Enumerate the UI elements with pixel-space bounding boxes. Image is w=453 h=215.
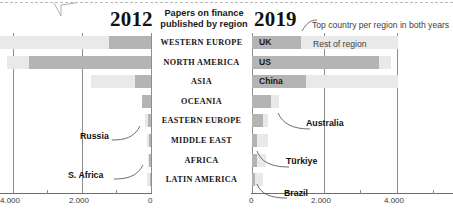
bar-segment-top-country: [150, 173, 151, 186]
bar-row: [0, 36, 152, 49]
annotation-russia: Russia: [80, 131, 109, 141]
bar-segment-top-country: [252, 134, 257, 147]
region-label-column: WESTERN EUROPENORTH AMERICAASIAOCEANIAEA…: [152, 33, 251, 193]
bar-segment-top-country: [29, 56, 151, 69]
year-label-2012: 2012: [110, 7, 153, 32]
bar-row: [251, 95, 453, 108]
region-label-africa: AFRICA: [152, 154, 251, 167]
bar-segment-top-country: [252, 173, 255, 186]
tick-left-0: 0: [148, 196, 152, 205]
bar-row: [251, 134, 453, 147]
rest-of-region-legend: Rest of region: [313, 38, 367, 51]
annotation-s-africa: S. Africa: [68, 170, 103, 180]
tick-left-2000: 2.000: [69, 196, 89, 205]
bar-segment-top-country: [142, 95, 151, 108]
bar-segment-top-country: [149, 134, 151, 147]
bar-segment-top-country: [135, 75, 151, 88]
chart-title-line2: published by region: [155, 19, 253, 30]
region-label-north-america: NORTH AMERICA: [152, 56, 251, 69]
bar-row: US: [251, 56, 453, 69]
tick-right-2000: 2.000: [311, 196, 331, 205]
bar-row: [0, 95, 152, 108]
chart-title-line1: Papers on finance: [155, 8, 253, 19]
tick-right-0: 0: [249, 196, 253, 205]
country-label-us: US: [252, 56, 379, 69]
bar-segment-top-country: [149, 154, 151, 167]
annotation-turkiye: Türkiye: [286, 156, 317, 166]
s-africa-leader-line: [114, 164, 144, 182]
annotation-australia: Australia: [306, 118, 344, 128]
region-label-latin-america: LATIN AMERICA: [152, 173, 251, 186]
bar-segment-top-country: [252, 114, 263, 127]
tick-left-4000: 4.000: [0, 196, 20, 205]
chart-title: Papers on finance published by region: [155, 8, 253, 30]
bar-segment-top-country: [109, 36, 151, 49]
top-country-note: Top country per region in both years: [312, 20, 449, 30]
bar-row: China: [251, 75, 453, 88]
region-label-asia: ASIA: [152, 75, 251, 88]
turkiye-leader-line: [256, 150, 290, 170]
bar-row: [0, 56, 152, 69]
minor-ticks: [0, 190, 453, 196]
region-label-western-europe: WESTERN EUROPE: [152, 36, 251, 49]
region-label-middle-east: MIDDLE EAST: [152, 134, 251, 147]
annotation-brazil: Brazil: [284, 188, 308, 198]
tick-right-4000: 4.000: [384, 196, 404, 205]
country-label-china: China: [252, 75, 306, 88]
bar-segment-top-country: [148, 114, 151, 127]
country-label-uk: UK: [252, 36, 301, 49]
region-label-oceania: OCEANIA: [152, 95, 251, 108]
region-label-eastern-europe: EASTERN EUROPE: [152, 114, 251, 127]
callout-tail-icon: [52, 2, 78, 17]
year-label-2019: 2019: [254, 7, 297, 32]
russia-leader-line: [112, 125, 142, 143]
bar-segment-top-country: [252, 95, 271, 108]
chart-figure: 2012 2019 Papers on finance published by…: [0, 0, 453, 215]
bar-row: [0, 75, 152, 88]
